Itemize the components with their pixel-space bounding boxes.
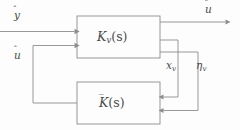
signal-label-etav: ηv: [196, 60, 206, 72]
signal-label-xv-subscript: v: [172, 64, 176, 73]
block-label-kv-argument: (s): [111, 29, 127, 44]
block-label-kbar-base: K: [99, 95, 108, 110]
signal-label-xv: xv: [166, 60, 176, 72]
signal-label-uhat-output-base: u: [205, 3, 212, 15]
wire-uhat-feedback: [33, 46, 77, 104]
signal-label-uhat-output: ̂u: [205, 4, 212, 15]
arrowhead-uhat-output: [226, 19, 231, 24]
signal-label-yhat: ̂y: [14, 10, 20, 21]
block-label-kv-base: K: [97, 29, 106, 44]
block-diagram: ̂y ̂u ̂u xv ηv Kv(s) ̅K(s): [0, 0, 240, 130]
block-label-kbar-argument: (s): [108, 95, 124, 110]
signal-label-uhat-feedback: ̂u: [14, 50, 21, 61]
block-label-kbar: ̅K(s): [99, 97, 125, 110]
block-label-kv: Kv(s): [97, 31, 127, 44]
signal-label-uhat-feedback-base: u: [14, 49, 21, 61]
signal-label-yhat-base: y: [14, 9, 20, 21]
signal-label-etav-subscript: v: [202, 64, 206, 73]
